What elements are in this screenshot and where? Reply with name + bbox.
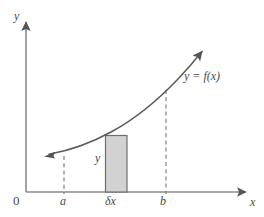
curve-left-arrowhead: [44, 152, 56, 159]
x-axis-label: x: [250, 196, 255, 208]
x-tick-label-b: b: [160, 195, 166, 207]
x-tick-label-a: a: [60, 195, 66, 207]
strip-height-label: y: [95, 152, 100, 164]
figure-canvas: [0, 0, 264, 217]
y-axis-label: y: [14, 10, 19, 22]
curve-equation-label: y = f(x): [184, 70, 220, 82]
strip-rectangle: [106, 136, 128, 193]
origin-label: 0: [13, 194, 20, 207]
strip-width-label: δx: [105, 195, 116, 207]
figure-container: y x 0 a δx b y y = f(x): [0, 0, 264, 217]
